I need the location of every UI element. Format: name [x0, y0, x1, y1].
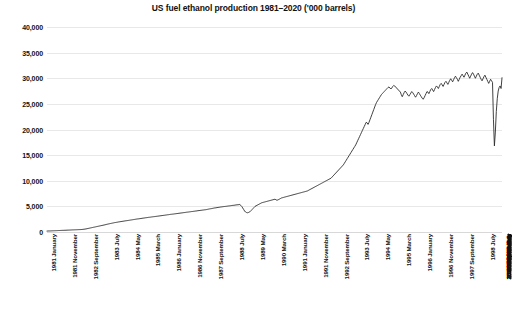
x-tick-label: 1990 March [280, 234, 287, 266]
line-series [47, 27, 502, 232]
x-tick-label: 1984 May [134, 234, 141, 260]
x-tick-label: 1991 January [301, 234, 308, 271]
x-tick-label: 1986 November [196, 234, 203, 278]
x-tick-label: 1994 May [384, 234, 391, 260]
y-axis: 05,00010,00015,00020,00025,00030,00035,0… [0, 27, 43, 232]
series-line [47, 72, 502, 231]
y-tick-label: 10,000 [22, 177, 43, 184]
plot-area [47, 27, 502, 232]
y-tick-label: 15,000 [22, 152, 43, 159]
x-tick-label: 2020 March [505, 234, 512, 266]
x-tick-label: 1987 September [217, 234, 224, 279]
x-axis: 1981 January1981 November1982 September1… [47, 234, 502, 309]
chart-title: US fuel ethanol production 1981–2020 ('0… [0, 3, 507, 13]
x-tick-label: 1985 March [154, 234, 161, 266]
y-tick-label: 5,000 [26, 203, 43, 210]
x-tick-label: 1986 January [175, 234, 182, 271]
x-tick-label: 1995 March [405, 234, 412, 266]
x-tick-label: 1996 November [447, 234, 454, 278]
x-tick-label: 1992 September [343, 234, 350, 279]
x-tick-label: 1998 July [489, 234, 496, 261]
x-tick-label: 1981 January [50, 234, 57, 271]
x-tick-label: 1989 May [259, 234, 266, 260]
y-tick-label: 20,000 [22, 126, 43, 133]
y-tick-label: 40,000 [22, 24, 43, 31]
y-tick-label: 35,000 [22, 49, 43, 56]
x-tick-label: 1988 July [238, 234, 245, 261]
x-tick-label: 1981 November [71, 234, 78, 278]
x-tick-label: 1991 November [322, 234, 329, 278]
x-tick-label: 1993 July [363, 234, 370, 261]
x-tick-label: 1996 January [426, 234, 433, 271]
y-tick-label: 0 [39, 229, 43, 236]
x-tick-label: 1983 July [113, 234, 120, 261]
y-tick-label: 30,000 [22, 75, 43, 82]
y-tick-label: 25,000 [22, 100, 43, 107]
x-tick-label: 1982 September [92, 234, 99, 279]
x-tick-label: 1997 September [468, 234, 475, 279]
